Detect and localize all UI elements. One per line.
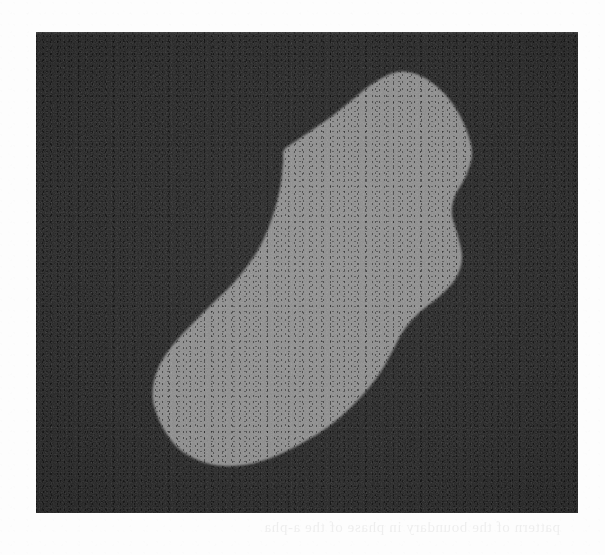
- dark-image-panel: [36, 32, 578, 513]
- bleed-through-caption: pattern of the boundary in phase of the …: [40, 519, 560, 539]
- segmentation-mask-figure: [36, 32, 578, 513]
- scanned-page: pattern of the boundary in phase of the …: [0, 0, 605, 555]
- segmented-region-outline: [153, 72, 473, 467]
- bleed-through-line-1: pattern of the boundary in phase of the …: [40, 519, 560, 536]
